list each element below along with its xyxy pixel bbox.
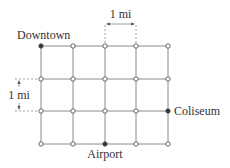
airport-label: Airport — [87, 147, 123, 161]
street-grid-diagram: 1 mi 1 mi Downtown C — [0, 0, 230, 168]
grid-lines — [41, 46, 168, 144]
vertical-scale-label: 1 mi — [8, 88, 30, 102]
downtown-label: Downtown — [17, 28, 70, 42]
downtown-node — [39, 44, 43, 48]
horizontal-scale-label: 1 mi — [110, 7, 132, 21]
airport-node — [103, 142, 107, 146]
coliseum-label: Coliseum — [174, 104, 221, 118]
horizontal-scale — [105, 23, 136, 45]
coliseum-node — [166, 109, 170, 113]
